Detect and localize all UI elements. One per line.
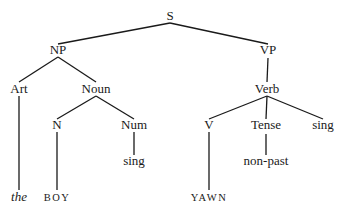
edge-noun-num	[96, 96, 134, 119]
node-yawn: YAWN	[191, 192, 228, 203]
node-art: Art	[10, 81, 28, 96]
edge-verb-sing2	[267, 96, 323, 119]
edge-verb-tense	[266, 96, 267, 119]
edge-s-np	[58, 23, 170, 44]
node-num: Num	[121, 117, 147, 132]
node-vp: VP	[260, 42, 277, 57]
node-noun: Noun	[82, 81, 111, 96]
node-s: S	[166, 8, 173, 23]
node-boy: BOY	[44, 192, 71, 203]
edge-verb-v	[209, 96, 267, 119]
edge-noun-n	[57, 96, 96, 119]
edge-np-noun	[58, 57, 96, 82]
edge-s-vp	[170, 23, 268, 44]
node-tense: Tense	[251, 117, 281, 132]
node-sing2: sing	[312, 117, 334, 132]
node-nonpast: non-past	[244, 153, 289, 168]
node-verb: Verb	[255, 81, 280, 96]
node-n: N	[52, 117, 62, 132]
tree-labels: SNPVPArtNounVerbNNumVTensesingsingnon-pa…	[10, 8, 334, 204]
edge-vp-verb	[267, 58, 268, 82]
syntax-tree-diagram: SNPVPArtNounVerbNNumVTensesingsingnon-pa…	[0, 0, 342, 212]
node-the: the	[11, 189, 27, 204]
edge-np-art	[19, 57, 58, 82]
node-v: V	[204, 117, 214, 132]
node-np: NP	[50, 42, 67, 57]
node-sing1: sing	[123, 153, 145, 168]
